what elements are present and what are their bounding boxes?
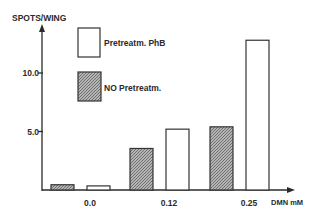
x-axis-arrow-icon <box>287 187 295 193</box>
bar-pretreatment-phb-0_0 <box>87 186 110 190</box>
y-tick: 5.0 <box>27 127 43 137</box>
x-tick-label: 0.25 <box>241 198 258 208</box>
legend: Pretreatm. PhB NO Pretreatm. <box>78 28 165 101</box>
bar-no-pretreatment-0_0 <box>51 185 74 190</box>
bar-chart: SPOTS/WING DMN mM 5.0 10.0 0.0 0.12 0.25… <box>0 0 315 215</box>
bar-pretreatment-phb-0_25 <box>246 40 269 190</box>
x-axis-label: DMN mM <box>271 198 303 207</box>
bar-no-pretreatment-0_12 <box>130 148 153 190</box>
x-tick-label: 0.12 <box>161 198 178 208</box>
bar-pretreatment-phb-0_12 <box>166 129 189 190</box>
y-tick: 10.0 <box>22 68 43 78</box>
bar-no-pretreatment-0_25 <box>210 127 233 190</box>
y-tick-label: 5.0 <box>27 127 39 137</box>
y-axis-arrow-icon <box>39 24 45 32</box>
legend-label: Pretreatm. PhB <box>104 38 165 48</box>
y-tick-label: 10.0 <box>22 68 39 78</box>
bars <box>51 40 269 190</box>
legend-swatch-open <box>78 28 100 57</box>
legend-label: NO Pretreatm. <box>104 83 161 93</box>
y-ticks: 5.0 10.0 <box>22 68 43 137</box>
legend-swatch-hatched <box>78 72 101 101</box>
x-tick-label: 0.0 <box>84 198 96 208</box>
y-axis-label: SPOTS/WING <box>12 13 67 23</box>
